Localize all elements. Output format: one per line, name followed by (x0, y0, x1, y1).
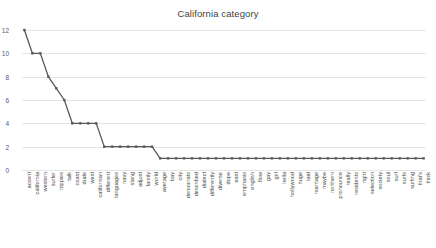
y-tick-label: 12 (0, 27, 9, 34)
x-tick-label: society (378, 172, 384, 189)
data-point-marker (406, 157, 408, 159)
data-point-marker (39, 52, 41, 54)
data-point-marker (327, 157, 329, 159)
data-point-marker (375, 157, 377, 159)
x-tick-label: democrats (186, 172, 192, 198)
data-point-marker (231, 157, 233, 159)
data-point-marker (263, 157, 265, 159)
x-tick-label: emphasis (242, 172, 248, 196)
x-tick-label: hollywood (290, 172, 296, 197)
data-point-marker (295, 157, 297, 159)
x-tick-label: really (346, 172, 352, 185)
x-tick-label: that's (418, 172, 424, 185)
data-point-marker (343, 157, 345, 159)
data-point-marker (279, 157, 281, 159)
x-tick-label: dope (226, 172, 232, 184)
data-point-marker (382, 157, 384, 159)
data-point-marker (247, 157, 249, 159)
data-point-marker (119, 145, 121, 147)
data-point-marker (127, 145, 129, 147)
x-tick-label: languages (114, 172, 120, 198)
data-point-marker (207, 157, 209, 159)
data-point-marker (31, 52, 33, 54)
x-tick-label: girl (274, 172, 280, 179)
data-point-marker (335, 157, 337, 159)
x-tick-label: pronounce (338, 172, 344, 198)
data-point-marker (223, 157, 225, 159)
data-point-marker (239, 157, 241, 159)
data-point-marker (319, 157, 321, 159)
data-point-marker (111, 145, 113, 147)
data-point-marker (23, 29, 25, 31)
y-tick-label: 4 (0, 120, 9, 127)
x-tick-label: hippies (59, 172, 65, 190)
x-tick-label: california (35, 172, 41, 194)
x-tick-label: city (178, 172, 184, 180)
x-tick-label: gay (266, 172, 272, 181)
x-tick-label: slang (130, 172, 136, 185)
x-tick-label: west (90, 172, 96, 184)
data-point-marker (271, 157, 273, 159)
x-tick-label: selection (370, 172, 376, 194)
data-point-marker (95, 122, 97, 124)
data-point-marker (159, 157, 161, 159)
data-point-marker (303, 157, 305, 159)
x-tick-label: adjust (138, 172, 144, 187)
x-tick-label: residents (354, 172, 360, 195)
x-tick-label: diverse (218, 172, 224, 190)
x-tick-label: northern (330, 172, 336, 193)
data-point-marker (63, 99, 65, 101)
data-point-marker (55, 87, 57, 89)
x-tick-label: surf (394, 172, 400, 181)
y-tick-label: 0 (0, 167, 9, 174)
x-tick-label: surfer (51, 172, 57, 186)
data-point-marker (398, 157, 400, 159)
data-point-marker (103, 145, 105, 147)
data-point-marker (422, 157, 424, 159)
y-tick-label: 2 (0, 143, 9, 150)
line-series (22, 30, 426, 170)
x-tick-label: talk (67, 172, 73, 181)
x-tick-label: californian (98, 172, 104, 198)
data-point-marker (255, 157, 257, 159)
data-point-marker (367, 157, 369, 159)
x-tick-label: dialect (202, 172, 208, 188)
x-tick-label: marriage (314, 172, 320, 194)
series-line (24, 30, 423, 158)
gridline (22, 170, 426, 171)
plot-area (22, 30, 426, 170)
x-tick-label: western (43, 172, 49, 192)
data-point-marker (287, 157, 289, 159)
chart-title: California category (0, 8, 436, 19)
data-point-marker (79, 122, 81, 124)
x-tick-label: hella (282, 172, 288, 184)
x-tick-label: family (146, 172, 152, 187)
y-tick-label: 10 (0, 50, 9, 57)
data-point-marker (414, 157, 416, 159)
data-point-marker (175, 157, 177, 159)
x-tick-label: east (234, 172, 240, 183)
data-point-marker (143, 145, 145, 147)
x-tick-label: flow (258, 172, 264, 182)
x-tick-label: navy (122, 172, 128, 184)
data-point-marker (191, 157, 193, 159)
x-tick-label: laid (306, 172, 312, 181)
data-point-marker (215, 157, 217, 159)
data-point-marker (151, 145, 153, 147)
data-point-marker (87, 122, 89, 124)
x-tick-label: described (194, 172, 200, 196)
x-tick-label: differently (210, 172, 216, 196)
data-point-marker (199, 157, 201, 159)
x-axis: accentcaliforniawesternsurferhippiestalk… (22, 172, 426, 248)
data-point-marker (167, 157, 169, 159)
data-point-marker (183, 157, 185, 159)
x-tick-label: surfing (410, 172, 416, 189)
y-tick-label: 8 (0, 73, 9, 80)
data-point-marker (311, 157, 313, 159)
x-tick-label: english (250, 172, 256, 190)
x-tick-label: surfs (402, 172, 408, 184)
x-tick-label: dude (82, 172, 88, 184)
data-point-marker (135, 145, 137, 147)
data-point-marker (390, 157, 392, 159)
x-tick-label: maybe (322, 172, 328, 189)
